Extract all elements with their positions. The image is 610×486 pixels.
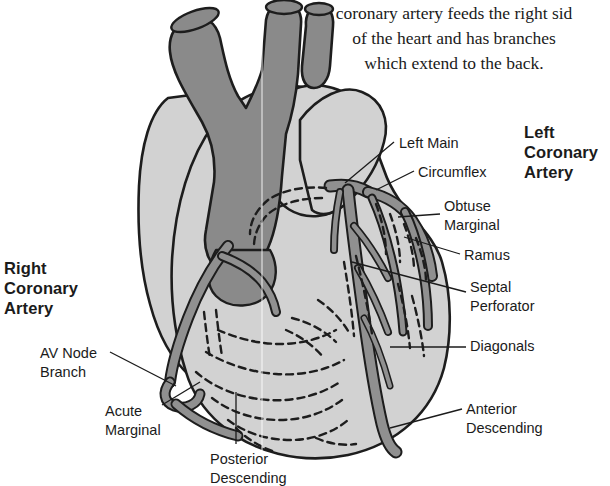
label-av-node-branch-line-1: AV Node <box>40 344 97 363</box>
label-left-main-text: Left Main <box>399 134 459 153</box>
left-coronary-heading-line-1: Left <box>524 122 598 142</box>
label-obtuse-marginal: Obtuse Marginal <box>444 197 500 234</box>
label-anterior-descending: Anterior Descending <box>466 400 543 437</box>
right-coronary-heading-line-3: Artery <box>4 298 78 318</box>
label-ramus-text: Ramus <box>464 246 510 265</box>
left-coronary-heading-line-3: Artery <box>524 162 598 182</box>
right-coronary-heading-line-1: Right <box>4 258 78 278</box>
label-acute-marginal-line-2: Marginal <box>105 421 161 440</box>
label-circumflex-text: Circumflex <box>418 163 486 182</box>
left-coronary-artery-heading: Left Coronary Artery <box>524 122 598 182</box>
label-posterior-descending-line-2: Descending <box>210 469 287 486</box>
label-posterior-descending: Posterior Descending <box>210 450 287 486</box>
label-diagonals: Diagonals <box>470 337 535 356</box>
right-coronary-heading-line-2: Coronary <box>4 278 78 298</box>
label-acute-marginal-line-1: Acute <box>105 402 161 421</box>
label-anterior-descending-line-1: Anterior <box>466 400 543 419</box>
figure-caption: coronary artery feeds the right sid of t… <box>286 1 610 76</box>
left-coronary-heading-line-2: Coronary <box>524 142 598 162</box>
label-acute-marginal: Acute Marginal <box>105 402 161 439</box>
right-coronary-artery-heading: Right Coronary Artery <box>4 258 78 318</box>
label-ramus: Ramus <box>464 246 510 265</box>
label-circumflex: Circumflex <box>418 163 486 182</box>
label-septal-perforator: Septal Perforator <box>470 278 534 315</box>
caption-line-2: of the heart and has branches <box>286 26 610 51</box>
label-diagonals-text: Diagonals <box>470 337 535 356</box>
label-av-node-branch-line-2: Branch <box>40 363 97 382</box>
label-septal-perforator-line-1: Septal <box>470 278 534 297</box>
figure-canvas: coronary artery feeds the right sid of t… <box>0 0 610 486</box>
caption-line-3: which extend to the back. <box>286 51 610 76</box>
label-posterior-descending-line-1: Posterior <box>210 450 287 469</box>
caption-line-1: coronary artery feeds the right sid <box>286 1 610 26</box>
label-av-node-branch: AV Node Branch <box>40 344 97 381</box>
label-left-main: Left Main <box>399 134 459 153</box>
label-anterior-descending-line-2: Descending <box>466 419 543 438</box>
label-obtuse-marginal-line-2: Marginal <box>444 216 500 235</box>
label-septal-perforator-line-2: Perforator <box>470 297 534 316</box>
label-obtuse-marginal-line-1: Obtuse <box>444 197 500 216</box>
